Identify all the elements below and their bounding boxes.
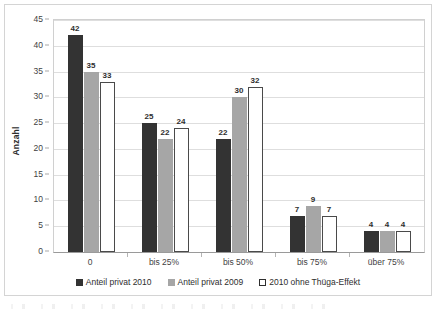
y-tick-label: 30 [34,92,43,101]
scan-artifact-smudge [11,304,331,309]
y-tick-label: 45 [34,15,43,24]
x-tick-label: 0 [88,257,93,267]
bar [158,139,173,252]
bar-value-label: 24 [170,118,193,126]
bar-value-label: 9 [302,196,325,204]
bar [248,87,263,252]
bar-value-label: 33 [96,72,119,80]
plot-area: 423533252224223032797444 [53,19,425,253]
x-tick-label: bis 50% [223,257,253,267]
y-tick-label: 20 [34,144,43,153]
bar-value-label: 42 [64,25,87,33]
bar-value-label: 7 [318,206,341,214]
bar [380,231,395,252]
y-tick-mark [45,96,49,97]
bar [232,97,247,252]
y-tick-mark [45,251,49,252]
x-axis-tick-labels: 0bis 25%bis 50%bis 75%über 75% [53,257,425,273]
bar-value-label: 32 [244,77,267,85]
y-tick-mark [45,147,49,148]
y-tick-label: 10 [34,195,43,204]
x-tick-mark [349,253,350,257]
y-axis-tick-labels: 051015202530354045 [19,19,49,253]
bar-value-label: 25 [138,113,161,121]
y-tick-label: 35 [34,66,43,75]
bar [216,139,231,252]
bar [396,231,411,252]
bar [142,123,157,252]
x-tick-label: über 75% [368,257,404,267]
y-tick-mark [45,19,49,20]
legend-swatch-icon [259,279,266,286]
x-tick-label: bis 25% [149,257,179,267]
legend-label: Anteil privat 2009 [178,277,244,287]
y-tick-mark [45,225,49,226]
y-tick-label: 25 [34,118,43,127]
y-tick-mark [45,173,49,174]
y-tick-mark [45,199,49,200]
gridline [54,20,424,21]
bar [84,72,99,252]
legend-item: Anteil privat 2009 [168,277,244,287]
y-tick-mark [45,70,49,71]
x-tick-mark [127,253,128,257]
bar [100,82,115,252]
legend-swatch-icon [76,279,83,286]
legend-label: 2010 ohne Thüga-Effekt [269,277,360,287]
y-tick-label: 15 [34,169,43,178]
bar [290,216,305,252]
y-tick-label: 40 [34,41,43,50]
legend-item: 2010 ohne Thüga-Effekt [259,277,360,287]
legend-item: Anteil privat 2010 [76,277,152,287]
y-tick-label: 5 [38,221,43,230]
x-tick-mark [201,253,202,257]
bar-value-label: 4 [392,221,415,229]
bar [322,216,337,252]
bar-value-label: 35 [80,62,103,70]
x-tick-label: bis 75% [297,257,327,267]
x-tick-mark [275,253,276,257]
legend-label: Anteil privat 2010 [86,277,152,287]
chart-legend: Anteil privat 2010Anteil privat 20092010… [5,277,431,287]
legend-swatch-icon [168,279,175,286]
bar [174,128,189,252]
y-tick-label: 0 [38,247,43,256]
bar [364,231,379,252]
gridline [54,46,424,47]
y-tick-mark [45,44,49,45]
chart-frame: Anzahl 051015202530354045 42353325222422… [4,4,432,296]
y-tick-mark [45,122,49,123]
